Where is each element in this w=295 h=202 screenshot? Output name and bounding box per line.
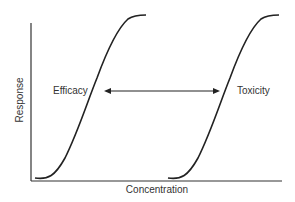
arrowhead-left-icon [104, 88, 111, 94]
x-axis-label: Concentration [126, 185, 188, 195]
toxicity-curve [168, 15, 279, 178]
dose-response-diagram [0, 0, 295, 202]
arrowhead-right-icon [213, 88, 220, 94]
efficacy-label: Efficacy [53, 86, 88, 96]
y-axis-label: Response [15, 77, 25, 122]
toxicity-label: Toxicity [237, 86, 270, 96]
efficacy-curve [35, 15, 146, 178]
double-arrow [104, 88, 220, 94]
